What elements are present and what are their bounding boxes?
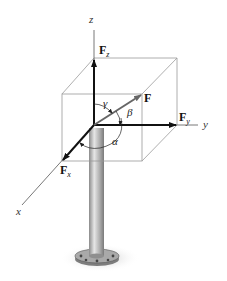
y-axis-label: y [203,119,208,130]
component-arrows [63,60,176,160]
z-axis-label: z [89,14,93,25]
fz-label: Fz [99,44,109,59]
force-f-arrow [94,95,141,125]
gamma-label: γ [103,98,107,109]
beta-arc [116,111,120,125]
axes [22,30,198,205]
alpha-label: α [112,136,118,147]
force-f-label: F [144,92,151,104]
x-axis-label: x [16,206,21,217]
fx-label: Fx [60,164,71,179]
beta-label: β [127,107,132,118]
fy-label: Fy [179,111,190,126]
